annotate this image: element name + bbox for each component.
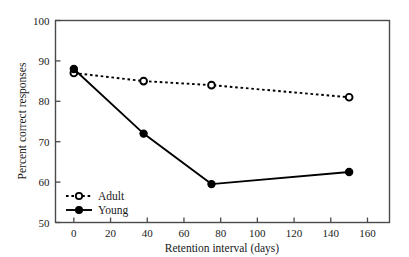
legend-marker-adult (76, 193, 82, 199)
legend-entry-young[interactable]: Young (66, 204, 128, 217)
x-axis: 020406080100120140160 (71, 218, 376, 239)
data-point-adult (346, 94, 353, 101)
legend-label-young: Young (98, 204, 128, 217)
y-tick-label: 70 (39, 136, 51, 148)
chart-legend: AdultYoung (66, 190, 128, 217)
legend-marker-young (76, 207, 83, 214)
x-tick-label: 140 (323, 227, 340, 239)
legend-label-adult: Adult (98, 190, 125, 202)
figure-container: 5060708090100 020406080100120140160 Adul… (0, 0, 409, 257)
x-tick-label: 80 (215, 227, 227, 239)
y-tick-label: 60 (39, 176, 51, 188)
y-axis: 5060708090100 (33, 15, 61, 229)
data-series-layer (70, 65, 352, 187)
x-tick-label: 0 (71, 227, 77, 239)
data-point-young (208, 181, 215, 188)
x-axis-title: Retention interval (days) (165, 242, 279, 255)
legend-entry-adult[interactable]: Adult (66, 190, 125, 202)
series-adult (70, 70, 352, 101)
x-tick-label: 100 (249, 227, 266, 239)
x-tick-label: 60 (178, 227, 190, 239)
data-point-young (346, 168, 353, 175)
x-tick-label: 40 (142, 227, 154, 239)
y-tick-label: 80 (39, 95, 51, 107)
x-tick-label: 20 (105, 227, 117, 239)
data-point-adult (140, 78, 147, 85)
y-tick-label: 90 (39, 55, 51, 67)
data-point-adult (208, 82, 215, 89)
x-tick-label: 120 (286, 227, 303, 239)
data-point-young (70, 65, 77, 72)
y-tick-label: 50 (39, 217, 51, 229)
y-axis-title: Percent correct responses (16, 62, 29, 179)
x-tick-label: 160 (359, 227, 376, 239)
y-tick-label: 100 (33, 15, 50, 27)
line-chart: 5060708090100 020406080100120140160 Adul… (0, 0, 409, 257)
data-point-young (140, 130, 147, 137)
